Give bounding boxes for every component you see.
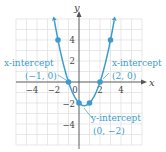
annotation-right-coords: (2, 0) (112, 71, 136, 81)
tick-y-2: 2 (70, 56, 75, 66)
data-point (76, 100, 82, 106)
curve-arrow-left-icon (52, 16, 57, 20)
data-point (108, 37, 114, 43)
data-point (97, 79, 103, 85)
tick-y-4: 4 (70, 35, 75, 45)
annotation-bottom-title: y-intercept (90, 113, 141, 123)
tick-x-4: 4 (118, 85, 123, 95)
x-axis-arrow-icon (141, 80, 147, 85)
data-point (66, 79, 72, 85)
y-axis-label: y (73, 2, 80, 13)
data-point (87, 100, 93, 106)
annotation-left-title: x-intercept (4, 58, 54, 68)
x-axis-label: x (149, 77, 155, 88)
leader-left (58, 75, 66, 80)
curve-arrow-right-icon (112, 16, 117, 20)
tick-x-neg4: −4 (26, 85, 39, 95)
data-point (55, 37, 61, 43)
annotation-left-coords: (−1, 0) (25, 71, 57, 81)
parabola-chart: x y −4 −2 0 2 4 4 2 −2 −4 x-intercept (−… (0, 0, 166, 152)
tick-y-neg2: −2 (62, 99, 75, 109)
annotation-right-title: x-intercept (112, 58, 162, 68)
annotation-bottom-coords: (0, −2) (93, 126, 125, 136)
tick-y-neg4: −4 (62, 120, 75, 130)
tick-x-neg2: −2 (48, 85, 61, 95)
leader-right (103, 73, 109, 79)
